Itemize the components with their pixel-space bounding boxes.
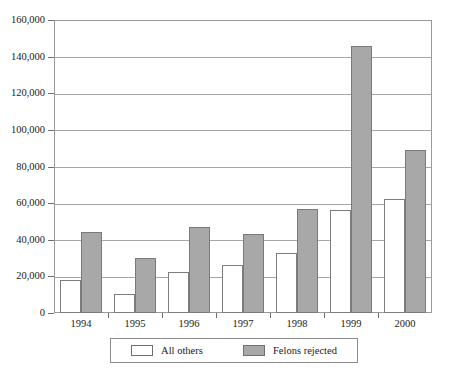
bar-1996-all-others — [168, 272, 189, 313]
bars-layer — [54, 20, 432, 313]
bar-1999-all-others — [330, 210, 351, 313]
legend-entry-felons-rejected: Felons rejected — [243, 345, 337, 356]
y-tick-label: 20,000 — [16, 271, 45, 282]
x-tick-label: 1996 — [179, 319, 200, 330]
bar-1997-felons-rejected — [243, 234, 264, 313]
y-tick-label: 120,000 — [11, 88, 45, 99]
white-swatch — [131, 345, 153, 356]
bar-1994-all-others — [60, 280, 81, 313]
bar-2000-all-others — [384, 199, 405, 313]
x-tick-label: 1999 — [341, 319, 362, 330]
y-tick-label: 100,000 — [11, 125, 45, 136]
x-tick-mark — [216, 313, 217, 318]
bar-chart: 020,00040,00060,00080,000100,000120,0001… — [0, 0, 451, 374]
bar-1995-felons-rejected — [135, 258, 156, 313]
x-tick-mark — [108, 313, 109, 318]
y-tick-label: 40,000 — [16, 235, 45, 246]
x-tick-label: 1995 — [125, 319, 146, 330]
bar-1996-felons-rejected — [189, 227, 210, 313]
x-tick-label: 1994 — [71, 319, 92, 330]
bar-2000-felons-rejected — [405, 150, 426, 313]
gray-swatch — [243, 345, 265, 356]
legend-label: All others — [161, 345, 203, 356]
y-tick-label: 140,000 — [11, 51, 45, 62]
y-tick-label: 60,000 — [16, 198, 45, 209]
bar-1995-all-others — [114, 294, 135, 313]
x-tick-mark — [324, 313, 325, 318]
x-tick-mark — [378, 313, 379, 318]
x-axis: 1994199519961997199819992000 — [54, 313, 432, 335]
x-tick-label: 2000 — [395, 319, 416, 330]
legend-entry-all-others: All others — [131, 345, 203, 356]
bar-1999-felons-rejected — [351, 46, 372, 313]
bar-1998-all-others — [276, 253, 297, 313]
y-tick-label: 0 — [40, 308, 45, 319]
y-tick-label: 80,000 — [16, 161, 45, 172]
y-axis: 020,00040,00060,00080,000100,000120,0001… — [0, 0, 54, 374]
chart-legend: All othersFelons rejected — [110, 338, 358, 363]
x-tick-label: 1997 — [233, 319, 254, 330]
x-tick-mark — [162, 313, 163, 318]
bar-1997-all-others — [222, 265, 243, 313]
y-tick-label: 160,000 — [11, 15, 45, 26]
bar-1994-felons-rejected — [81, 232, 102, 313]
bar-1998-felons-rejected — [297, 209, 318, 313]
legend-label: Felons rejected — [273, 345, 337, 356]
x-tick-mark — [270, 313, 271, 318]
x-tick-label: 1998 — [287, 319, 308, 330]
